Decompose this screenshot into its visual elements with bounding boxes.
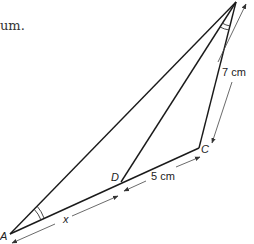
edge-AC bbox=[10, 148, 199, 234]
angle-mark-B-2 bbox=[220, 27, 229, 30]
dim-AD-left bbox=[12, 224, 55, 243]
label-BC: 7 cm bbox=[222, 66, 246, 78]
label-x: x bbox=[62, 213, 69, 225]
label-A: A bbox=[0, 230, 7, 242]
dimension-lines bbox=[12, 4, 246, 243]
dim-DC-left bbox=[124, 181, 146, 191]
dim-BC-bottom bbox=[212, 82, 232, 143]
angle-marks bbox=[34, 23, 230, 220]
triangle-diagram: A D C x 5 cm 7 cm bbox=[0, 0, 254, 244]
label-C: C bbox=[201, 143, 209, 155]
dim-AD-right bbox=[72, 196, 118, 216]
angle-mark-A-2 bbox=[37, 206, 44, 218]
dim-BC-top bbox=[218, 4, 246, 62]
label-DC: 5 cm bbox=[151, 170, 175, 182]
edge-BD bbox=[121, 2, 236, 182]
label-D: D bbox=[111, 171, 119, 183]
edge-AB bbox=[10, 2, 236, 234]
angle-mark-B bbox=[222, 23, 230, 26]
triangle-edges bbox=[10, 2, 236, 234]
dim-DC-right bbox=[176, 157, 200, 167]
